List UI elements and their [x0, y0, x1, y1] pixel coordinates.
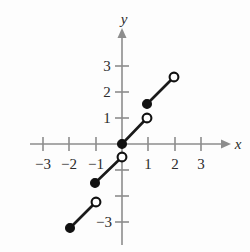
- x-label-neg-1: −1: [88, 156, 104, 172]
- coordinate-plane-svg: −3 −2 −1 1 2 3 3 2 1 −3 x y: [0, 0, 250, 252]
- y-label-pos-2: 2: [103, 84, 111, 100]
- x-label-neg-2: −2: [61, 156, 77, 172]
- x-axis-label: x: [234, 136, 242, 152]
- segment-2-closed-endpoint: [91, 179, 100, 188]
- segment-4-line: [147, 77, 174, 104]
- y-label-pos-3: 3: [103, 58, 111, 74]
- y-label-pos-1: 1: [103, 110, 111, 126]
- x-axis-group: [30, 137, 231, 151]
- y-axis-group: [115, 28, 129, 245]
- segment-3-closed-endpoint: [118, 140, 127, 149]
- y-axis-arrowhead: [118, 28, 127, 38]
- graph-figure: −3 −2 −1 1 2 3 3 2 1 −3 x y: [0, 0, 250, 252]
- segment-3-open-endpoint: [143, 114, 152, 123]
- segment-1-open-endpoint: [92, 198, 101, 207]
- segment-4-open-endpoint: [170, 73, 179, 82]
- x-label-neg-3: −3: [35, 156, 51, 172]
- segment-2-open-endpoint: [118, 153, 127, 162]
- segment-1-closed-endpoint: [66, 224, 75, 233]
- y-label-neg-3: −3: [96, 214, 112, 230]
- segment-4-closed-endpoint: [143, 100, 152, 109]
- segment-4: [143, 73, 179, 109]
- segment-1-line: [70, 202, 96, 228]
- x-axis-arrowhead: [221, 140, 231, 149]
- x-label-pos-3: 3: [197, 156, 205, 172]
- y-axis-label: y: [119, 11, 128, 27]
- x-label-pos-2: 2: [171, 156, 179, 172]
- x-label-pos-1: 1: [144, 156, 152, 172]
- axis-names-group: x y: [119, 11, 242, 152]
